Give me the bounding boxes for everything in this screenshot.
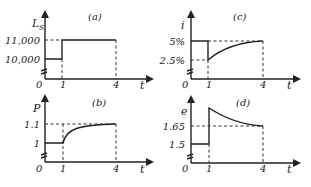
panel-label: (c) (233, 11, 247, 22)
panel-a: LS (a) 11,000 10,000 0 1 4 t (5, 11, 152, 92)
y-label: LS (31, 17, 44, 32)
x-tick-0: 0 (182, 79, 189, 90)
y-tick-hi: 5% (169, 36, 185, 47)
series-i (191, 41, 263, 60)
x-tick-1: 1 (206, 163, 212, 174)
series-ls (45, 40, 116, 59)
x-tick-0: 0 (182, 163, 189, 174)
x-tick-4: 4 (112, 163, 119, 174)
y-tick-hi: 1.65 (163, 121, 185, 132)
y-tick-lo: 10,000 (5, 54, 41, 65)
x-tick-1: 1 (60, 163, 66, 174)
axis-break-icon (41, 69, 47, 74)
x-tick-1: 1 (206, 79, 212, 90)
x-label: t (140, 79, 145, 92)
x-tick-0: 0 (36, 79, 43, 90)
y-tick-lo: 2.5% (159, 55, 185, 66)
y-tick-lo: 1.5 (169, 139, 185, 150)
panel-label: (d) (236, 97, 250, 108)
y-tick-hi: 11,000 (5, 35, 41, 46)
panel-label: (a) (88, 11, 102, 22)
y-tick-hi: 1.1 (24, 119, 40, 130)
x-tick-4: 4 (259, 163, 266, 174)
axis-break-icon (187, 154, 193, 159)
y-tick-lo: 1 (34, 138, 40, 149)
x-label: t (287, 163, 292, 176)
y-label: i (181, 19, 185, 32)
y-label: e (181, 105, 188, 118)
axis-break-icon (41, 153, 47, 158)
panel-d: e (d) 1.65 1.5 0 1 4 t (163, 97, 299, 176)
panel-b: P (b) 1.1 1 0 1 4 t (24, 96, 152, 176)
figure: LS (a) 11,000 10,000 0 1 4 t i (c) 5% 2.… (0, 0, 311, 187)
series-p (45, 124, 116, 143)
panel-label: (b) (92, 97, 106, 108)
axis-break-icon (187, 69, 193, 74)
x-tick-4: 4 (259, 79, 266, 90)
panel-c: i (c) 5% 2.5% 0 1 4 t (159, 11, 299, 92)
x-label: t (287, 79, 292, 92)
x-tick-4: 4 (112, 79, 119, 90)
x-tick-1: 1 (60, 79, 66, 90)
x-label: t (140, 163, 145, 176)
y-label: P (32, 102, 41, 115)
x-tick-0: 0 (36, 163, 43, 174)
